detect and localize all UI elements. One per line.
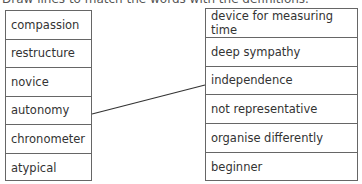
match-lines	[0, 0, 362, 184]
match-line-autonomy-independence	[92, 85, 205, 114]
